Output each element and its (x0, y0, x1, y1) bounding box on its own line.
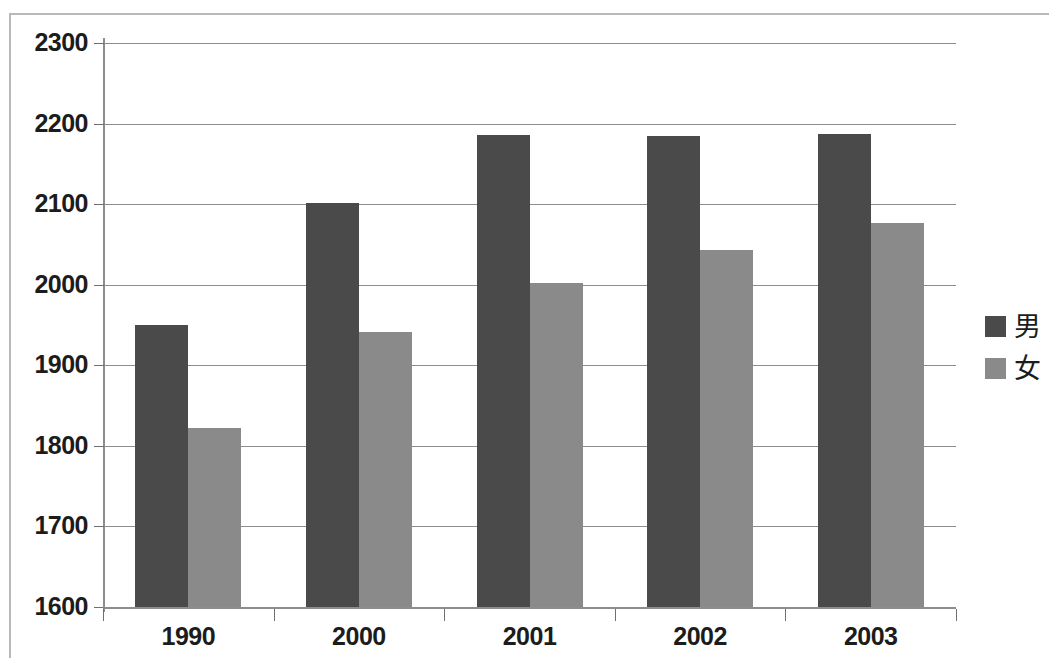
plot-area (103, 43, 956, 607)
x-tick-mark (785, 609, 786, 621)
bar-2001-female (530, 283, 583, 607)
x-tick-mark (615, 609, 616, 621)
bar-chart: 23002200210020001900180017001600 1990200… (0, 0, 1057, 670)
y-tick-label: 1700 (8, 513, 88, 538)
bar-2000-male (306, 203, 359, 607)
chart-legend: 男女 (985, 305, 1057, 389)
bar-2000-female (359, 332, 412, 607)
bar-2002-male (647, 136, 700, 607)
y-axis-labels: 23002200210020001900180017001600 (0, 0, 88, 670)
x-tick-mark (274, 609, 275, 621)
x-tick-label-1990: 1990 (103, 624, 273, 649)
legend-label: 女 (1014, 355, 1041, 382)
y-tick-label: 2300 (8, 30, 88, 55)
x-axis-line (103, 607, 956, 609)
x-tick-label-2000: 2000 (274, 624, 444, 649)
legend-item-male: 男 (985, 305, 1057, 347)
x-tick-label-2001: 2001 (445, 624, 615, 649)
y-tick-label: 1600 (8, 594, 88, 619)
bar-2003-male (818, 134, 871, 607)
bar-2003-female (871, 223, 924, 607)
x-tick-mark (444, 609, 445, 621)
y-tick-label: 1800 (8, 433, 88, 458)
y-tick-label: 1900 (8, 352, 88, 377)
bar-2002-female (700, 250, 753, 607)
legend-swatch-icon (985, 316, 1006, 337)
y-tick-label: 2100 (8, 191, 88, 216)
bar-1990-female (188, 428, 241, 607)
legend-item-female: 女 (985, 347, 1057, 389)
bar-2001-male (477, 135, 530, 607)
legend-label: 男 (1014, 313, 1041, 340)
y-tick-label: 2200 (8, 111, 88, 136)
x-tick-label-2002: 2002 (615, 624, 785, 649)
y-tick-label: 2000 (8, 272, 88, 297)
x-tick-mark (956, 609, 957, 621)
x-tick-mark (103, 609, 104, 621)
legend-swatch-icon (985, 358, 1006, 379)
x-tick-label-2003: 2003 (786, 624, 956, 649)
bar-1990-male (135, 325, 188, 607)
